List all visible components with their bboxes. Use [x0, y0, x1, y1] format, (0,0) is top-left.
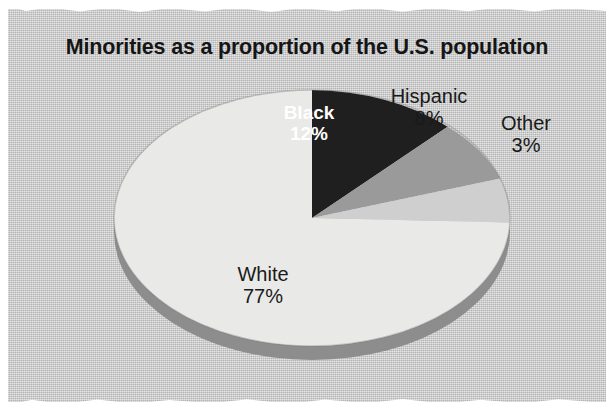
pie-label-white-value: 77%: [198, 285, 328, 307]
pie-label-black: Black 12%: [254, 102, 364, 145]
pie-label-black-value: 12%: [254, 123, 364, 144]
pie-label-white-name: White: [198, 263, 328, 285]
pie-label-white: White 77%: [198, 263, 328, 308]
pie-label-other: Other 3%: [478, 112, 574, 157]
pie-label-hispanic-name: Hispanic: [374, 85, 484, 107]
pie-label-black-name: Black: [254, 102, 364, 123]
pie-chart-svg: [8, 9, 606, 402]
pie-label-hispanic-value: 8%: [374, 107, 484, 129]
chart-page: Minorities as a proportion of the U.S. p…: [0, 0, 614, 415]
pie-label-other-name: Other: [478, 112, 574, 134]
pie-label-other-value: 3%: [478, 134, 574, 156]
pie-label-hispanic: Hispanic 8%: [374, 85, 484, 130]
pie-chart: Black 12% Hispanic 8% Other 3% White 77%: [8, 9, 606, 402]
scanned-plate-background: Minorities as a proportion of the U.S. p…: [8, 9, 606, 402]
